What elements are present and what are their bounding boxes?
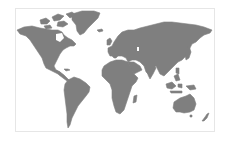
- madagascar: [133, 95, 137, 103]
- central-america: [56, 70, 69, 81]
- north-america: [17, 26, 76, 75]
- uk: [107, 38, 112, 45]
- greenland: [72, 11, 100, 35]
- southeast-asia-islands: [166, 68, 196, 93]
- new-zealand: [202, 113, 209, 121]
- tasmania: [190, 115, 192, 117]
- arctic-islands: [40, 12, 76, 29]
- world-map: [0, 0, 231, 144]
- australia: [173, 94, 196, 113]
- india: [146, 64, 156, 79]
- south-america: [64, 77, 90, 128]
- iceland: [97, 29, 103, 32]
